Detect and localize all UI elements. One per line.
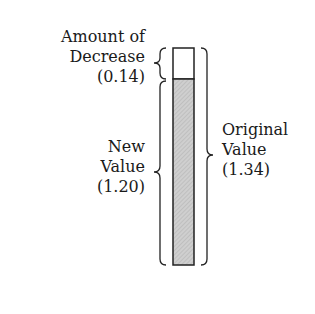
new-value-value: (1.20) [97,177,145,197]
decrease-label: Amount of Decrease (0.14) [61,27,145,87]
new-value-label-line1: New [97,137,145,157]
original-label-line2: Value [222,140,288,160]
decrease-label-line1: Amount of [61,27,145,47]
new-value-label: New Value (1.20) [97,137,145,197]
decrease-segment [173,48,194,79]
decrease-label-line2: Decrease [61,47,145,67]
new-value-segment [173,79,194,265]
decrease-value: (0.14) [61,67,145,87]
decrease-brace [154,48,166,79]
original-label-line1: Original [222,120,288,140]
new-value-label-line2: Value [97,157,145,177]
original-value-label: Original Value (1.34) [222,120,288,180]
original-value-brace [201,48,213,265]
original-value: (1.34) [222,160,288,180]
new-value-brace [154,81,166,265]
